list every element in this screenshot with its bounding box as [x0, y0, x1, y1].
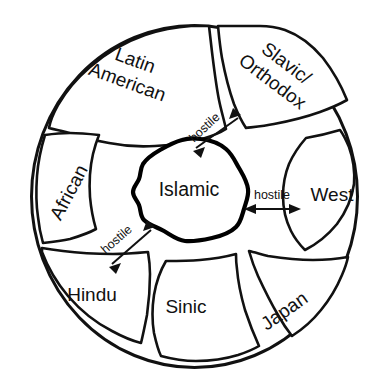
label-islamic: Islamic: [159, 178, 220, 200]
label-hostile-west-text: hostile: [254, 188, 290, 202]
label-west: West: [311, 184, 355, 205]
label-hostile-west: hostile: [254, 188, 290, 202]
label-west-text: West: [311, 184, 355, 205]
label-hindu: Hindu: [67, 284, 117, 305]
civilizations-diagram: Latin American Slavic/ Orthodox African …: [0, 0, 382, 386]
label-sinic: Sinic: [165, 296, 206, 317]
label-islamic-text: Islamic: [159, 178, 220, 200]
diagram-canvas: Latin American Slavic/ Orthodox African …: [0, 0, 382, 386]
label-sinic-text: Sinic: [165, 296, 206, 317]
label-hindu-text: Hindu: [67, 284, 117, 305]
